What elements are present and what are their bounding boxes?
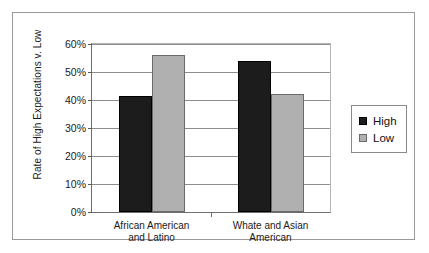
gridline [92,72,330,73]
y-tick-mark [88,72,92,73]
legend-item-low: Low [359,129,397,146]
chart-legend: High Low [351,105,407,153]
category-label-2: Whate and AsianAmerican [233,220,309,244]
bar-low-group2 [271,94,304,212]
category-label-1: African Americanand Latino [114,220,190,244]
y-tick-label: 40% [65,94,86,106]
y-tick-mark [88,44,92,45]
legend-label-low: Low [373,132,394,144]
bar-high-group1 [119,96,152,212]
category-tick [211,212,212,217]
y-tick-label: 10% [65,178,86,190]
gridline [92,44,330,45]
high-swatch-icon [359,117,367,125]
bar-high-group2 [238,61,271,212]
y-tick-label: 50% [65,66,86,78]
chart-figure: Rate of High Expectations v. Low 60%50%4… [12,12,415,240]
bar-low-group1 [152,55,185,212]
y-tick-mark [88,100,92,101]
y-tick-label: 60% [65,38,86,50]
low-swatch-icon [359,134,367,142]
y-tick-label: 20% [65,150,86,162]
y-tick-mark [88,156,92,157]
plot-area: 60%50%40%30%20%10%0%African Americanand … [91,43,331,213]
legend-label-high: High [373,115,397,127]
y-tick-mark [88,184,92,185]
y-tick-mark [88,212,92,213]
legend-item-high: High [359,112,397,129]
y-tick-label: 30% [65,122,86,134]
y-tick-label: 0% [71,206,86,218]
y-tick-mark [88,128,92,129]
y-axis-title: Rate of High Expectations v. Low [32,15,43,195]
